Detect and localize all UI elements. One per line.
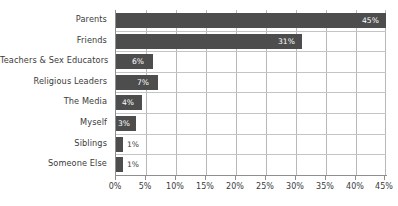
tick-label-5: 5% bbox=[130, 182, 160, 192]
bar-value-friends: 31% bbox=[278, 35, 295, 48]
tick-label-0: 0% bbox=[100, 182, 130, 192]
gridline-horizontal-7 bbox=[116, 154, 386, 155]
category-label-the-media: The Media bbox=[0, 96, 107, 106]
bar-value-the-media: 4% bbox=[122, 96, 134, 109]
category-axis-line bbox=[116, 175, 387, 176]
tick-mark-10 bbox=[175, 176, 176, 180]
category-label-someone-else: Someone Else bbox=[0, 158, 107, 168]
category-label-friends: Friends bbox=[0, 35, 107, 45]
tick-label-40: 40% bbox=[340, 182, 370, 192]
tick-mark-45 bbox=[384, 176, 385, 180]
tick-label-20: 20% bbox=[220, 182, 250, 192]
gridline-horizontal-3 bbox=[116, 72, 386, 73]
tick-mark-35 bbox=[325, 176, 326, 180]
bar-value-religious-leaders: 7% bbox=[137, 76, 149, 89]
tick-label-25: 25% bbox=[250, 182, 280, 192]
category-axis: Parents Friends Teachers & Sex Educators… bbox=[0, 10, 111, 175]
bar-parents[interactable] bbox=[116, 13, 386, 28]
bar-friends[interactable] bbox=[116, 34, 302, 49]
gridline-horizontal-6 bbox=[116, 134, 386, 135]
tick-mark-0 bbox=[115, 176, 116, 180]
bar-value-myself: 3% bbox=[118, 117, 130, 130]
gridline-horizontal-4 bbox=[116, 92, 386, 93]
bar-value-teachers-sex-educators: 6% bbox=[132, 55, 144, 68]
bar-value-siblings: 1% bbox=[127, 138, 139, 151]
bar-value-parents: 45% bbox=[362, 14, 379, 27]
category-label-religious-leaders: Religious Leaders bbox=[0, 76, 107, 86]
plot-area: 45% 31% 6% 7% 4% 3% 1% 1% bbox=[115, 10, 386, 175]
category-label-siblings: Siblings bbox=[0, 138, 107, 148]
tick-mark-30 bbox=[295, 176, 296, 180]
tick-label-30: 30% bbox=[280, 182, 310, 192]
tick-label-45: 45% bbox=[369, 182, 398, 192]
gridline-horizontal-2 bbox=[116, 51, 386, 52]
bar-value-someone-else: 1% bbox=[127, 158, 139, 171]
bar-siblings[interactable] bbox=[116, 137, 123, 152]
gridline-horizontal-5 bbox=[116, 113, 386, 114]
bar-someone-else[interactable] bbox=[116, 157, 123, 172]
gridline-horizontal-1 bbox=[116, 31, 386, 32]
tick-mark-20 bbox=[235, 176, 236, 180]
tick-mark-15 bbox=[205, 176, 206, 180]
category-label-parents: Parents bbox=[0, 14, 107, 24]
tick-label-35: 35% bbox=[310, 182, 340, 192]
tick-mark-5 bbox=[145, 176, 146, 180]
tick-label-15: 15% bbox=[190, 182, 220, 192]
tick-label-10: 10% bbox=[160, 182, 190, 192]
bar-chart: Parents Friends Teachers & Sex Educators… bbox=[0, 0, 398, 206]
tick-mark-25 bbox=[265, 176, 266, 180]
tick-mark-40 bbox=[355, 176, 356, 180]
category-label-teachers-sex-educators: Teachers & Sex Educators bbox=[0, 55, 107, 65]
category-label-myself: Myself bbox=[0, 117, 107, 127]
